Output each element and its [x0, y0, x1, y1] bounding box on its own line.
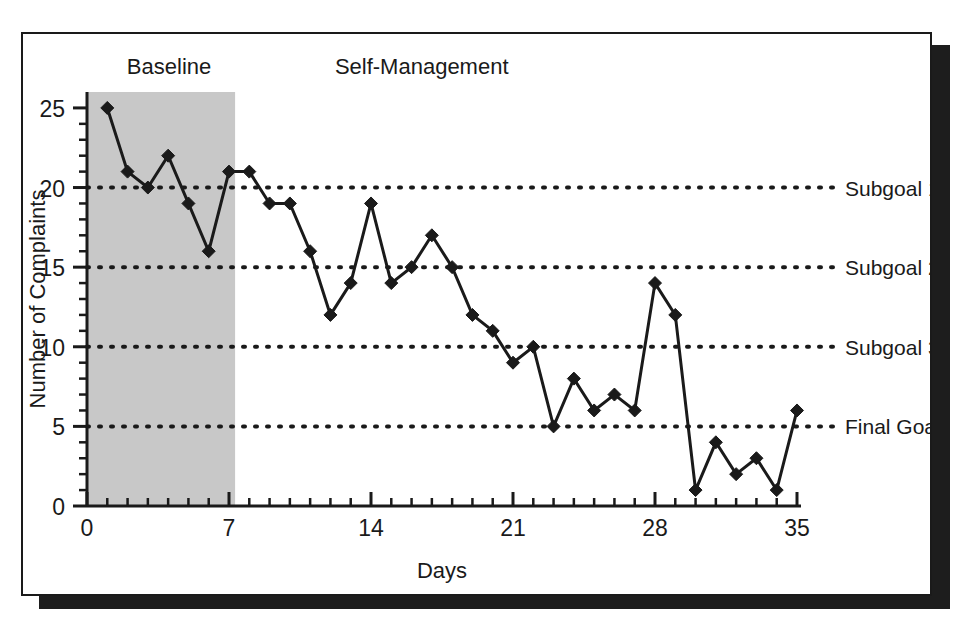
reference-line-label: Final Goal	[845, 415, 930, 438]
reference-line-label: Subgoal 2	[845, 256, 930, 279]
figure-frame: 0510152025 0714212835 Subgoal 1Subgoal 2…	[21, 32, 932, 596]
baseline-phase-shading	[87, 92, 235, 506]
y-axis-tick-label: 0	[52, 494, 65, 520]
y-axis-ticks	[73, 108, 87, 506]
reference-line-label: Subgoal 1	[845, 177, 930, 200]
data-point-marker	[689, 484, 702, 497]
phase-label-self-management: Self-Management	[335, 54, 509, 79]
complaints-line-chart: 0510152025 0714212835 Subgoal 1Subgoal 2…	[23, 34, 930, 594]
x-axis-tick-label: 7	[223, 515, 236, 541]
y-axis-title: Number of Complaints	[25, 190, 50, 409]
data-point-marker	[791, 404, 804, 417]
figure-page: 0510152025 0714212835 Subgoal 1Subgoal 2…	[0, 0, 960, 618]
x-axis-tick-label: 28	[642, 515, 668, 541]
x-axis-tick-label: 14	[358, 515, 384, 541]
x-axis-tick-label: 35	[784, 515, 810, 541]
phase-label-baseline: Baseline	[127, 54, 211, 79]
x-axis-title: Days	[417, 558, 467, 583]
data-point-marker	[283, 197, 296, 210]
x-axis-tick-label: 0	[81, 515, 94, 541]
y-axis-tick-label: 5	[52, 414, 65, 440]
y-axis-tick-label: 25	[39, 96, 65, 122]
x-axis-tick-labels: 0714212835	[81, 515, 810, 541]
reference-line-label: Subgoal 3	[845, 336, 930, 359]
data-point-marker	[304, 245, 317, 258]
x-axis-tick-label: 21	[500, 515, 526, 541]
reference-line-labels: Subgoal 1Subgoal 2Subgoal 3Final Goal	[845, 177, 930, 439]
data-point-marker	[547, 420, 560, 433]
data-point-marker	[365, 197, 378, 210]
